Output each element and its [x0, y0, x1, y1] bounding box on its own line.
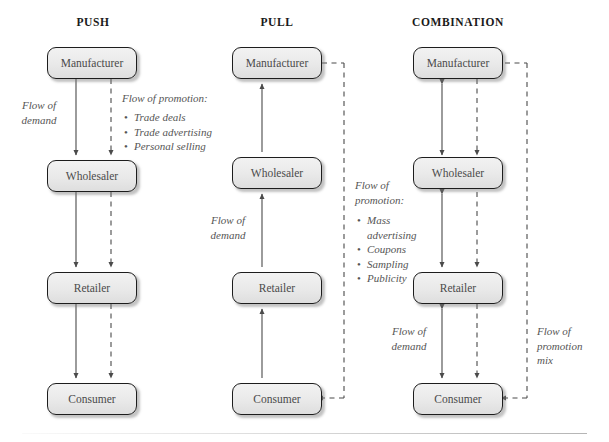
combination-connectors — [442, 63, 527, 398]
combination-node-retailer[interactable]: Retailer — [413, 272, 503, 304]
push-promotion-item: Trade deals — [124, 110, 220, 125]
pull-node-manufacturer[interactable]: Manufacturer — [232, 47, 322, 79]
push-promotion-list: Trade deals Trade advertising Personal s… — [124, 110, 220, 154]
pull-label-flow-of-demand: Flow of demand — [197, 213, 259, 242]
push-label-flow-of-promotion-heading: Flow of promotion: — [122, 91, 222, 106]
push-promotion-item: Personal selling — [124, 139, 220, 154]
column-title-push: PUSH — [48, 16, 138, 28]
pull-node-wholesaler[interactable]: Wholesaler — [232, 157, 322, 189]
pull-node-consumer[interactable]: Consumer — [232, 383, 322, 415]
push-node-wholesaler[interactable]: Wholesaler — [47, 160, 137, 192]
combination-node-manufacturer[interactable]: Manufacturer — [413, 47, 503, 79]
push-promotion-item: Trade advertising — [124, 125, 220, 140]
pull-promotion-item: Sampling — [357, 257, 429, 272]
pull-promotion-item: Mass advertising — [357, 213, 429, 242]
push-node-consumer[interactable]: Consumer — [47, 383, 137, 415]
push-node-manufacturer[interactable]: Manufacturer — [47, 47, 137, 79]
combination-label-flow-of-promotion-mix: Flow of promotion mix — [537, 324, 605, 368]
footer-divider — [22, 433, 587, 434]
push-label-flow-of-demand: Flow of demand — [8, 98, 70, 127]
push-connectors — [76, 79, 111, 378]
column-title-combination: COMBINATION — [404, 16, 512, 28]
combination-node-wholesaler[interactable]: Wholesaler — [413, 157, 503, 189]
combination-label-flow-of-demand: Flow of demand — [378, 324, 440, 353]
pull-connectors — [262, 63, 344, 398]
combination-node-consumer[interactable]: Consumer — [413, 383, 503, 415]
pull-node-retailer[interactable]: Retailer — [232, 272, 322, 304]
push-pull-combination-diagram: PUSH Manufacturer Wholesaler Retailer Co… — [0, 0, 609, 442]
column-title-pull: PULL — [232, 16, 322, 28]
pull-promotion-item: Coupons — [357, 242, 429, 257]
push-node-retailer[interactable]: Retailer — [47, 272, 137, 304]
